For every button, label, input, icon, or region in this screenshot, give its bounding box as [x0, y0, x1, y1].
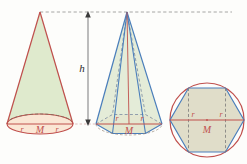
geometry-diagram: r M r h: [0, 0, 247, 164]
height-label: h: [79, 62, 85, 74]
pyramid-center-label: M: [124, 125, 134, 136]
cone-center-label: M: [35, 124, 45, 135]
hexagon-center-label: M: [202, 124, 212, 135]
geometry-figure-canvas: r M r h: [0, 0, 247, 164]
hexagon-center-dot: [206, 119, 208, 121]
inscribed-hexagon-figure: r r M: [170, 83, 244, 157]
